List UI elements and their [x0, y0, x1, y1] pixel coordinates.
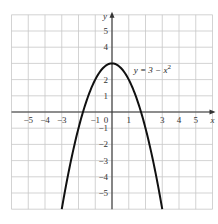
axes	[12, 12, 216, 209]
y-tick-label: −4	[98, 172, 108, 182]
equation-base: y = 3 − x	[133, 65, 168, 75]
equation-exponent: 2	[167, 63, 171, 71]
x-tick-label: 3	[160, 115, 165, 125]
y-tick-label: −2	[98, 139, 108, 149]
parabola-chart: −5−4−3−1013455421−1−2−3−4−5 x y y = 3 − …	[0, 0, 218, 224]
y-tick-label: −5	[98, 188, 108, 198]
x-tick-label: 1	[127, 115, 132, 125]
x-tick-label: −4	[40, 115, 50, 125]
y-tick-label: 2	[104, 75, 109, 85]
x-tick-label: 5	[194, 115, 199, 125]
equation-annotation: y = 3 − x2	[133, 63, 172, 75]
x-tick-label: −5	[23, 115, 33, 125]
y-tick-label: −3	[98, 156, 108, 166]
x-tick-label: −3	[57, 115, 67, 125]
y-tick-label: −1	[98, 123, 108, 133]
x-tick-label: 4	[177, 115, 182, 125]
y-tick-label: 5	[104, 26, 109, 36]
y-tick-label: 4	[104, 42, 109, 52]
y-tick-label: 1	[104, 91, 109, 101]
y-axis-label: y	[102, 11, 107, 21]
x-axis-label: x	[210, 115, 215, 125]
